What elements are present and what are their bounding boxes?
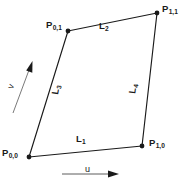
vertex-marker-p10 — [140, 144, 145, 149]
parametric-patch-diagram: P0,0 P1,0 P1,1 P0,1 L1 L2 L3 L4 u v — [0, 0, 191, 184]
vertex-label-p01-base: P — [46, 19, 52, 30]
vertex-label-p11-base: P — [162, 3, 168, 14]
vertex-label-p10-subscript: 1,0 — [156, 142, 165, 149]
vertex-marker-p00 — [27, 155, 32, 160]
vertex-label-p01: P0,1 — [46, 20, 62, 30]
vertex-marker-p01 — [66, 29, 71, 34]
edge-label-l2: L2 — [99, 21, 108, 31]
vertex-label-p01-subscript: 0,1 — [53, 24, 62, 31]
edge-label-l1: L1 — [76, 134, 85, 144]
edge-label-l4-base: L — [126, 87, 138, 94]
edge-label-l3-subscript: 3 — [56, 85, 64, 90]
v-axis-arrow — [13, 61, 33, 113]
u-axis-arrow — [62, 171, 119, 178]
edge-label-l3: L3 — [50, 84, 61, 95]
vertex-label-p00-base: P — [2, 147, 8, 158]
vertex-label-p10: P1,0 — [149, 138, 165, 148]
edge-l1-line — [29, 146, 142, 157]
edge-label-l2-subscript: 2 — [105, 25, 109, 32]
edge-label-l1-subscript: 1 — [82, 138, 86, 145]
edge-label-l4-subscript: 4 — [133, 84, 140, 88]
vertex-markers — [27, 11, 160, 160]
vertex-label-p10-base: P — [149, 137, 155, 148]
edge-label-l2-base: L — [99, 20, 105, 31]
vertex-label-p00-subscript: 0,0 — [9, 152, 18, 159]
vertex-label-p11-subscript: 1,1 — [169, 8, 178, 15]
edge-label-l4: L4 — [127, 84, 138, 95]
edge-label-l1-base: L — [76, 133, 82, 144]
v-axis-arrow-head — [26, 61, 32, 73]
edge-l4-line — [142, 13, 157, 146]
edge-l2-line — [68, 13, 157, 31]
u-axis-arrow-head — [108, 171, 119, 178]
v-axis-arrow-shaft — [13, 70, 29, 113]
vertex-label-p00: P0,0 — [2, 148, 18, 158]
diagram-canvas — [0, 0, 191, 184]
vertex-marker-p11 — [155, 11, 160, 16]
edge-l3-line — [29, 31, 68, 157]
u-axis-label: u — [85, 165, 90, 174]
vertex-label-p11: P1,1 — [162, 4, 178, 14]
